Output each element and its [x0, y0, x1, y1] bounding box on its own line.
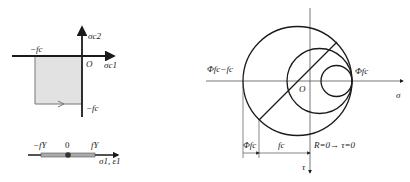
mohr-diagram: Φfc−fc Φfc O σ τ Φfc fc R=0→ τ=0 [206, 8, 403, 173]
zero-label: 0 [65, 140, 70, 150]
tau-label: τ [302, 162, 306, 172]
neg-fy-label: −fY [33, 140, 48, 150]
diagram-canvas: σc2 σc1 O −fc −fc −fY 0 fY σ1, ε1 Φfc−fc… [0, 0, 410, 182]
sigma-c1-label: σc1 [104, 60, 117, 70]
zero-dot [65, 152, 71, 158]
uniaxial-diagram: −fY 0 fY σ1, ε1 [28, 140, 121, 166]
right-point-label: Φfc [355, 66, 368, 76]
neg-fc-x-label: −fc [30, 44, 43, 54]
biaxial-diagram: σc2 σc1 O −fc −fc [12, 27, 117, 117]
dim-phi-fc-label: Φfc [243, 140, 256, 150]
note-label: R=0→ τ=0 [313, 140, 356, 150]
dim-fc-label: fc [278, 140, 285, 150]
shaded-region [35, 56, 82, 104]
sigma-c2-label: σc2 [88, 31, 101, 41]
sigma1-eps1-label: σ1, ε1 [99, 156, 121, 166]
sigma-label: σ [396, 90, 401, 100]
origin-label: O [86, 59, 93, 69]
origin-label-right: O [299, 84, 306, 94]
left-point-label: Φfc−fc [207, 64, 233, 74]
fy-label: fY [91, 140, 100, 150]
neg-fc-y-label: −fc [86, 103, 99, 113]
